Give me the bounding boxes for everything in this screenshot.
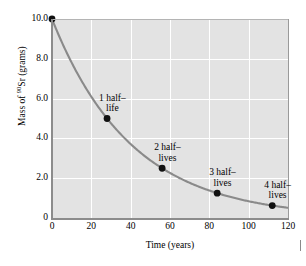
data-point-marker — [104, 115, 111, 122]
data-point-marker — [159, 165, 166, 172]
half-life-annotation: 3 half–lives — [209, 167, 236, 188]
x-tick-label: 120 — [273, 221, 303, 231]
y-tick-label: 10.0 — [24, 13, 48, 23]
decay-curve-path — [52, 19, 288, 208]
x-axis-line — [51, 218, 289, 220]
y-tick-label: 8.0 — [24, 53, 48, 63]
plot-area — [52, 19, 288, 218]
x-axis-label: Time (years) — [52, 240, 288, 250]
data-point-markers — [49, 16, 276, 209]
data-point-marker — [269, 202, 276, 209]
x-tick-label: 40 — [116, 221, 146, 231]
x-tick-label: 0 — [37, 221, 67, 231]
annotation-line-1: 3 half– — [209, 167, 236, 178]
annotation-line-1: 1 half– — [99, 93, 126, 104]
y-tick-label: 6.0 — [24, 93, 48, 103]
annotation-line-1: 4 half– — [264, 180, 291, 191]
annotation-line-2: lives — [264, 190, 291, 201]
y-axis-label: Mass of 90Sr (grams) — [15, 21, 27, 151]
plot-top-border — [52, 19, 289, 20]
annotation-line-1: 2 half– — [154, 142, 181, 153]
half-life-annotation: 1 half–life — [99, 93, 126, 114]
data-point-marker — [214, 190, 221, 197]
x-axis-ticks: 020406080100120 — [52, 221, 288, 237]
annotation-line-2: lives — [209, 178, 236, 189]
half-life-annotation: 2 half–lives — [154, 142, 181, 163]
half-life-annotation: 4 half–lives — [264, 180, 291, 201]
page-corner-mark — [300, 240, 301, 251]
x-tick-label: 80 — [194, 221, 224, 231]
y-tick-label: 2.0 — [24, 172, 48, 182]
y-tick-label: 4.0 — [24, 132, 48, 142]
decay-chart: 1 half–life2 half–lives3 half–lives4 hal… — [0, 0, 306, 266]
x-tick-label: 20 — [76, 221, 106, 231]
annotation-line-2: lives — [154, 153, 181, 164]
decay-curve-svg — [52, 19, 288, 218]
x-tick-label: 60 — [155, 221, 185, 231]
y-axis-line — [51, 19, 53, 219]
x-tick-label: 100 — [234, 221, 264, 231]
annotation-line-2: life — [99, 103, 126, 114]
